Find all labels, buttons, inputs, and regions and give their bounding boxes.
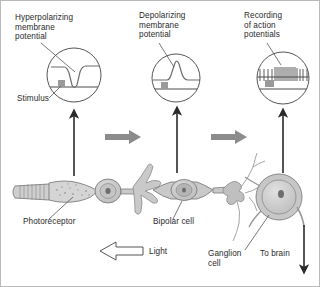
retina-pathway-figure: Hyperpolarizing membrane potential Depol…: [0, 0, 320, 287]
inset-depolarizing: [151, 61, 202, 89]
leader-ganglion: [245, 215, 269, 250]
light-arrow: [100, 242, 143, 260]
figure-vector-layer: [1, 1, 320, 287]
cell-bipolar-shape: [153, 180, 229, 201]
label-to-brain: To brain: [260, 249, 290, 259]
cell-photoreceptor-shape: [13, 179, 135, 203]
recording-arrows: [74, 111, 283, 176]
label-bipolar-cell: Bipolar cell: [153, 217, 194, 227]
cell-ganglion-shape: [245, 174, 304, 227]
label-ganglion-cell: Ganglion cell: [208, 249, 252, 268]
inset-action-potentials: [257, 67, 310, 89]
label-photoreceptor: Photoreceptor: [23, 217, 76, 227]
flow-arrow-2: [211, 130, 247, 144]
label-light: Light: [149, 247, 167, 257]
spike-train: [260, 67, 307, 81]
inset-hyperpolarizing: [47, 66, 101, 88]
cell-interneuron-right: [223, 181, 244, 204]
flow-arrow-1: [105, 130, 141, 144]
label-stimulus: Stimulus: [17, 94, 49, 104]
